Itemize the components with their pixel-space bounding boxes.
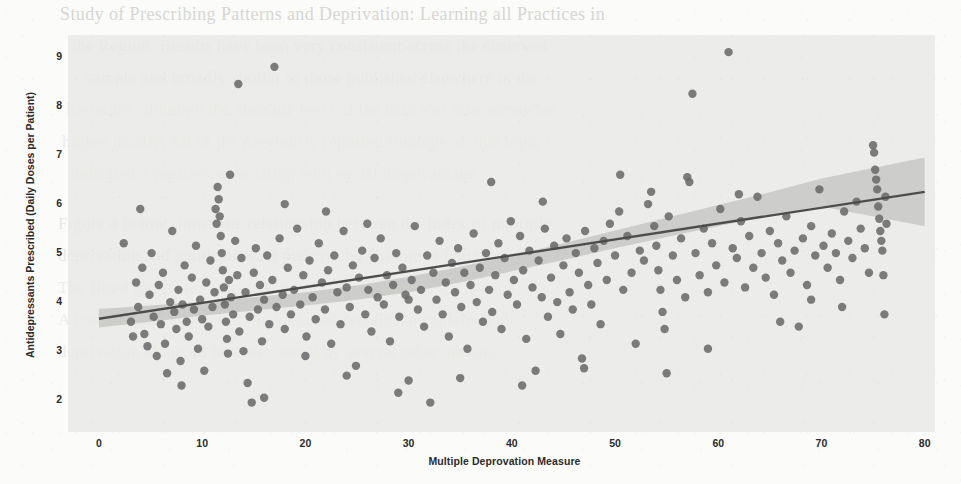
scatter-point	[423, 251, 431, 259]
scatter-point	[878, 246, 886, 254]
scatter-point	[708, 239, 716, 247]
scatter-point	[565, 288, 573, 296]
scatter-point	[673, 276, 681, 284]
scatter-point	[219, 266, 227, 274]
y-axis-tick: 7	[40, 148, 62, 160]
scatter-point	[640, 256, 648, 264]
scatter-point	[163, 369, 171, 377]
x-axis-tick: 10	[182, 437, 222, 449]
scatter-point	[596, 320, 604, 328]
scatter-point	[222, 318, 230, 326]
scatter-point	[491, 271, 499, 279]
scatter-point	[293, 224, 301, 232]
scatter-point	[615, 207, 623, 215]
scatter-point	[647, 188, 655, 196]
scatter-point	[127, 318, 135, 326]
scatter-point	[457, 303, 465, 311]
scatter-point	[330, 251, 338, 259]
scatter-point	[593, 259, 601, 267]
scatter-point	[287, 310, 295, 318]
scatter-point	[438, 310, 446, 318]
scatter-point	[161, 340, 169, 348]
scatter-point	[716, 205, 724, 213]
scatter-point	[488, 308, 496, 316]
scatter-point	[211, 205, 219, 213]
scatter-point	[180, 261, 188, 269]
scatter-point	[213, 183, 221, 191]
scatter-point	[482, 249, 490, 257]
scatter-point	[134, 303, 142, 311]
scatter-point	[442, 278, 450, 286]
scatter-point	[284, 264, 292, 272]
scatter-point	[882, 220, 890, 228]
scatter-point	[321, 305, 329, 313]
scatter-point	[778, 256, 786, 264]
scatter-point	[870, 148, 878, 156]
x-axis-tick: 0	[79, 437, 119, 449]
scatter-point	[370, 254, 378, 262]
scatter-point	[848, 254, 856, 262]
scatter-point	[237, 254, 245, 262]
scatter-point	[265, 320, 273, 328]
scatter-point	[456, 374, 464, 382]
scatter-point	[377, 234, 385, 242]
scatter-point	[315, 239, 323, 247]
scatter-point	[250, 269, 258, 277]
scatter-point	[270, 63, 278, 71]
scatter-point	[145, 291, 153, 299]
scatter-point	[140, 330, 148, 338]
scatter-point	[296, 300, 304, 308]
scatter-point	[132, 278, 140, 286]
scatter-point	[153, 352, 161, 360]
scatter-point	[349, 261, 357, 269]
scatter-point	[603, 276, 611, 284]
scatter-point	[417, 286, 425, 294]
scatter-point	[275, 234, 283, 242]
scatter-point	[513, 300, 521, 308]
scatter-point	[656, 286, 664, 294]
x-axis-tick: 50	[595, 437, 635, 449]
scatter-point	[305, 256, 313, 264]
y-axis-tick: 6	[40, 197, 62, 209]
plot-canvas	[68, 35, 935, 432]
scatter-point	[220, 283, 228, 291]
scatter-point	[652, 242, 660, 250]
scatter-point	[865, 269, 873, 277]
scatter-point	[192, 242, 200, 250]
scatter-point	[879, 271, 887, 279]
scatter-point	[528, 283, 536, 291]
scatter-point	[367, 327, 375, 335]
scatter-point	[776, 318, 784, 326]
scatter-point	[301, 352, 309, 360]
scatter-point	[631, 340, 639, 348]
scatter-point	[190, 305, 198, 313]
scatter-point	[811, 251, 819, 259]
scatter-point	[380, 300, 388, 308]
scatter-point	[432, 295, 440, 303]
scatter-point	[654, 266, 662, 274]
scatter-point	[254, 305, 262, 313]
scatter-point	[683, 173, 691, 181]
scatter-point	[226, 170, 234, 178]
scatter-point	[147, 249, 155, 257]
scatter-point	[394, 389, 402, 397]
scatter-point	[408, 276, 416, 284]
scatter-point	[753, 193, 761, 201]
scatter-point	[239, 347, 247, 355]
scatter-point	[363, 220, 371, 228]
scatter-point	[229, 310, 237, 318]
scatter-point	[704, 344, 712, 352]
x-axis-title: Multiple Deprovation Measure	[0, 455, 961, 467]
scatter-point	[590, 244, 598, 252]
scatter-point	[159, 269, 167, 277]
scatter-point	[194, 344, 202, 352]
scatter-point	[386, 337, 394, 345]
scatter-point	[838, 303, 846, 311]
scatter-point	[665, 212, 673, 220]
scatter-point	[712, 261, 720, 269]
x-axis-tick: 30	[389, 437, 429, 449]
scatter-point	[749, 264, 757, 272]
scatter-point	[451, 288, 459, 296]
scatter-point	[176, 357, 184, 365]
scatter-point	[170, 308, 178, 316]
